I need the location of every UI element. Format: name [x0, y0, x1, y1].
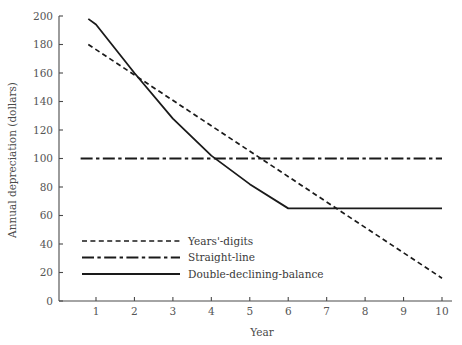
chart-canvas: 020406080100120140160180200 12345678910 … — [0, 0, 462, 345]
x-tick-label: 9 — [400, 305, 407, 317]
x-tick-label: 4 — [208, 305, 215, 317]
x-axis-ticks: 12345678910 — [93, 297, 449, 317]
series-line-double-declining-balance — [88, 19, 442, 209]
legend-label: Years'-digits — [187, 235, 253, 247]
chart-legend: Years'-digitsStraight-lineDouble-declini… — [82, 235, 324, 280]
y-tick-label: 140 — [33, 95, 53, 107]
y-tick-label: 180 — [33, 38, 53, 50]
y-tick-label: 200 — [33, 10, 53, 22]
y-tick-label: 100 — [33, 152, 53, 164]
y-tick-label: 160 — [33, 67, 53, 79]
y-tick-label: 60 — [40, 209, 53, 221]
series-group — [81, 19, 442, 278]
y-axis-title: Annual depreciation (dollars) — [6, 82, 18, 239]
legend-label: Double-declining-balance — [188, 268, 324, 280]
y-axis-group: 020406080100120140160180200 — [33, 10, 63, 307]
y-tick-label: 40 — [40, 238, 53, 250]
x-tick-label: 7 — [323, 305, 330, 317]
x-tick-label: 5 — [246, 305, 253, 317]
x-tick-label: 3 — [170, 305, 177, 317]
y-tick-label: 0 — [46, 295, 53, 307]
y-tick-label: 80 — [40, 181, 53, 193]
depreciation-chart: 020406080100120140160180200 12345678910 … — [0, 0, 462, 345]
x-tick-label: 2 — [131, 305, 138, 317]
x-tick-label: 10 — [435, 305, 448, 317]
y-tick-label: 120 — [33, 124, 53, 136]
x-tick-label: 6 — [285, 305, 292, 317]
x-tick-label: 1 — [93, 305, 100, 317]
x-tick-label: 8 — [362, 305, 369, 317]
legend-label: Straight-line — [188, 251, 255, 263]
series-line-years-digits — [88, 45, 442, 279]
x-axis-group: 12345678910 — [59, 297, 452, 317]
y-tick-label: 20 — [40, 266, 53, 278]
x-axis-title: Year — [249, 326, 274, 338]
